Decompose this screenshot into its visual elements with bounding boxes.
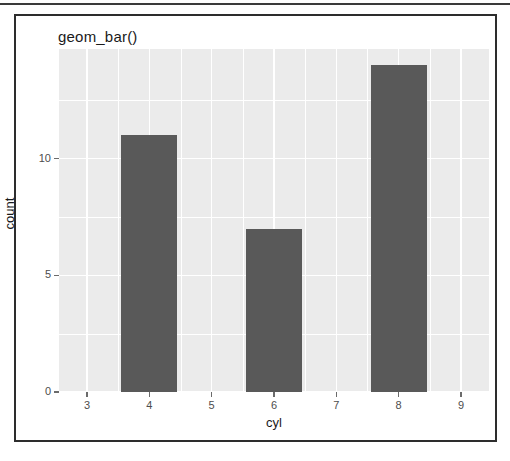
- figure-frame: geom_bar() 0510 count 3456789 cyl: [14, 14, 497, 442]
- bar-6: [246, 229, 302, 392]
- x-tick-label: 4: [146, 399, 152, 411]
- x-tick-mark: [398, 392, 400, 397]
- bar-4: [121, 135, 177, 392]
- y-tick-label: 0: [45, 385, 51, 397]
- y-tick-label: 5: [45, 268, 51, 280]
- plot-title: geom_bar(): [58, 28, 138, 45]
- x-tick-mark: [149, 392, 151, 397]
- x-tick-label: 6: [271, 399, 277, 411]
- x-tick-mark: [211, 392, 213, 397]
- y-tick-label: 10: [39, 152, 51, 164]
- x-tick-label: 7: [333, 399, 339, 411]
- screenshot-root: geom_bar() 0510 count 3456789 cyl: [0, 0, 510, 461]
- x-tick-mark: [273, 392, 275, 397]
- x-axis: 3456789: [59, 392, 489, 416]
- x-tick-label: 3: [84, 399, 90, 411]
- x-axis-title: cyl: [59, 415, 489, 430]
- y-axis: 0510: [16, 49, 59, 392]
- x-tick-label: 9: [458, 399, 464, 411]
- y-tick-mark: [54, 275, 59, 277]
- plot-panel: [59, 49, 489, 392]
- x-tick-mark: [86, 392, 88, 397]
- top-divider-rule: [0, 3, 510, 5]
- y-axis-title: count: [2, 198, 17, 230]
- x-tick-mark: [460, 392, 462, 397]
- x-tick-label: 8: [396, 399, 402, 411]
- bar-8: [371, 65, 427, 392]
- y-tick-mark: [54, 158, 59, 160]
- x-tick-mark: [336, 392, 338, 397]
- x-tick-label: 5: [209, 399, 215, 411]
